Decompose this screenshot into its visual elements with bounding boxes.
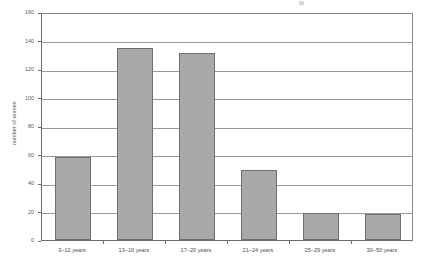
bar-chart: number of women 020406080100120140160 3–…	[0, 0, 425, 267]
y-tick-label: 160	[14, 10, 34, 15]
y-tick-label: 0	[14, 238, 34, 243]
y-tick-label: 80	[14, 124, 34, 129]
bar	[55, 157, 91, 240]
bar	[117, 48, 153, 240]
y-tick-label: 100	[14, 96, 34, 101]
y-tick-label: 120	[14, 67, 34, 72]
x-tick-label: 30–50 years	[342, 248, 422, 254]
bar	[303, 213, 339, 240]
x-tick-mark	[165, 241, 166, 244]
x-tick-mark	[289, 241, 290, 244]
bar	[241, 170, 277, 240]
y-tick-label: 140	[14, 39, 34, 44]
bar	[179, 53, 215, 240]
plot-area	[41, 13, 413, 241]
y-tick-label: 40	[14, 181, 34, 186]
x-tick-mark	[227, 241, 228, 244]
x-tick-mark	[103, 241, 104, 244]
y-tick-label: 60	[14, 153, 34, 158]
y-tick-label: 20	[14, 210, 34, 215]
bar	[365, 214, 401, 240]
x-tick-mark	[351, 241, 352, 244]
top-edge-artifact	[299, 1, 304, 5]
bars-layer	[42, 14, 412, 240]
